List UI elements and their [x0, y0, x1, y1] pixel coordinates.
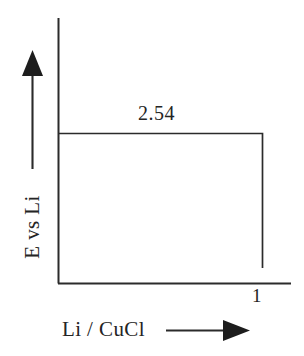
x-axis-title: Li / CuCl [62, 319, 145, 340]
discharge-curve [58, 134, 263, 269]
y-axis-title: E vs Li [22, 195, 43, 258]
arrow-right-icon [166, 320, 250, 341]
chart-figure: 2.54 1 Li / CuCl E vs Li [0, 0, 304, 356]
plateau-value-label: 2.54 [138, 103, 175, 123]
x-axis-tick-label-1: 1 [252, 286, 262, 305]
arrow-up-icon [22, 50, 43, 169]
